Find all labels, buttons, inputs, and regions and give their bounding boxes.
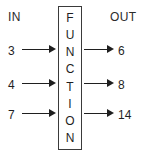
input-value: 7 — [8, 108, 15, 122]
arrow-shaft — [22, 113, 49, 114]
function-letter: T — [66, 81, 73, 93]
output-column-header: OUT — [110, 10, 137, 24]
arrow-head — [107, 45, 114, 53]
input-value: 3 — [8, 44, 15, 58]
output-value: 14 — [118, 108, 131, 122]
function-letter: U — [66, 29, 75, 41]
arrow-head — [49, 45, 56, 53]
function-letter: I — [68, 98, 71, 110]
arrow-head — [49, 79, 56, 87]
arrow-shaft — [22, 49, 49, 50]
function-box: F U N C T I O N — [58, 6, 82, 150]
function-letter: F — [66, 12, 73, 24]
arrow-shaft — [84, 49, 107, 50]
arrow-shaft — [84, 83, 107, 84]
function-machine-diagram: IN OUT F U N C T I O N 3 6 4 8 7 — [0, 0, 146, 156]
arrow-head — [49, 109, 56, 117]
function-letter: O — [65, 115, 74, 127]
input-value: 4 — [8, 78, 15, 92]
input-arrow-icon — [22, 45, 56, 54]
function-label-stack: F U N C T I O N — [59, 7, 81, 149]
output-arrow-icon — [84, 45, 114, 54]
arrow-head — [107, 109, 114, 117]
output-arrow-icon — [84, 79, 114, 88]
output-arrow-icon — [84, 109, 114, 118]
input-column-header: IN — [8, 10, 21, 24]
arrow-head — [107, 79, 114, 87]
input-arrow-icon — [22, 109, 56, 118]
arrow-shaft — [84, 113, 107, 114]
function-letter: N — [66, 46, 75, 58]
output-value: 6 — [118, 44, 125, 58]
function-letter: N — [66, 132, 75, 144]
arrow-shaft — [22, 83, 49, 84]
input-arrow-icon — [22, 79, 56, 88]
function-letter: C — [66, 63, 75, 75]
output-value: 8 — [118, 78, 125, 92]
